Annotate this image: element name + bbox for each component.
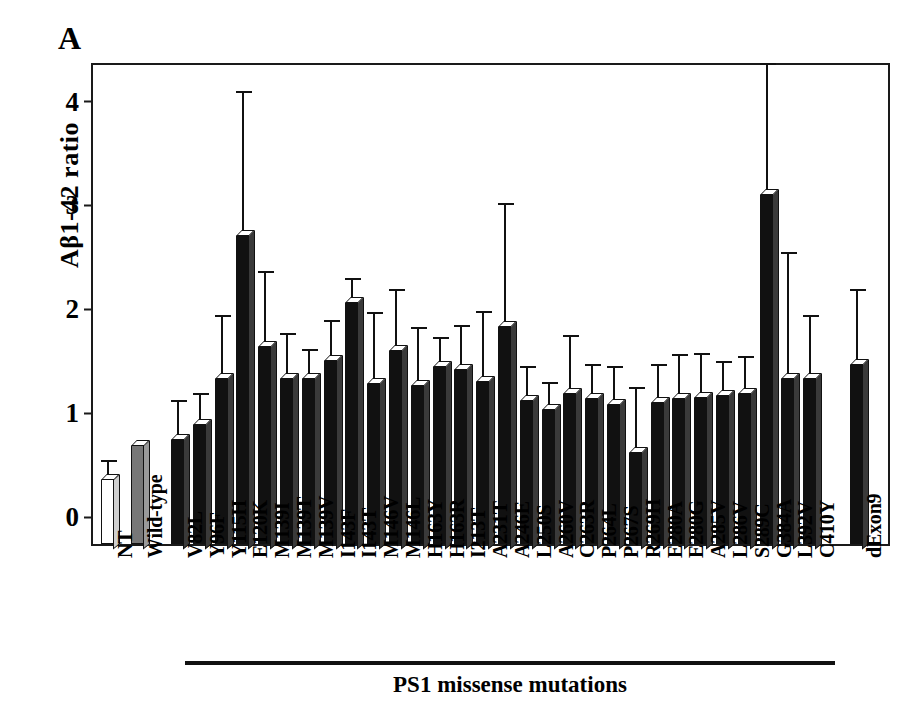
x-label-wild-type: Wild-type	[145, 475, 165, 558]
error-bar-cap	[345, 278, 361, 280]
error-bar-cap	[716, 361, 732, 363]
error-bar-cap	[542, 382, 558, 384]
x-axis-labels: NTWild-typeV82LY96FY115HE120KM139IM139TM…	[0, 552, 924, 672]
error-bar-cap	[694, 353, 710, 355]
y-tick-label: 0	[66, 504, 85, 531]
error-bar-cap	[850, 289, 866, 291]
error-bar-cap	[738, 356, 754, 358]
error-bar-cap	[302, 349, 318, 351]
error-bar-a231t	[482, 312, 484, 375]
error-bar-e120k	[242, 92, 244, 230]
error-bar-cap	[215, 315, 231, 317]
error-bar-m146l	[395, 290, 397, 345]
x-label-l286v: L286V	[730, 501, 750, 558]
x-label-h163r: H163R	[447, 499, 467, 558]
y-tick-label: 1	[66, 400, 85, 427]
bar-g384a[interactable]	[760, 189, 779, 544]
y-tick-3: 3	[66, 192, 94, 219]
x-label-a231t: A231T	[490, 501, 510, 558]
error-bar-p264l	[591, 365, 593, 393]
x-label-a285v: A285V	[708, 500, 728, 558]
bar-face	[131, 445, 144, 544]
x-label-m139t: M139T	[294, 497, 314, 558]
y-tick-mark	[84, 516, 93, 518]
x-label-m139v: M139V	[316, 496, 336, 558]
x-label-y96f: Y96F	[207, 512, 227, 558]
error-bar-s289c	[744, 357, 746, 388]
plot-area: 01234	[91, 63, 890, 546]
y-tick-mark	[84, 101, 93, 103]
error-bar-cap	[236, 91, 252, 93]
bar-face	[236, 235, 249, 544]
error-bar-cap	[433, 337, 449, 339]
error-bar-m139v	[308, 350, 310, 373]
error-bar-cap	[367, 312, 383, 314]
x-label-m146v: M146V	[381, 496, 401, 558]
y-tick-mark	[84, 204, 93, 206]
y-tick-mark	[84, 308, 93, 310]
error-bar-e280a	[657, 365, 659, 396]
y-tick-label: 2	[66, 296, 85, 323]
x-label-g384a: G384A	[774, 499, 794, 558]
error-bar-m146v	[373, 313, 375, 377]
error-bar-cap	[280, 333, 296, 335]
error-bar-cap	[760, 63, 776, 65]
error-bar-h163y	[417, 328, 419, 380]
x-axis-title: PS1 missense mutations	[185, 672, 835, 698]
error-bar-l250s	[526, 367, 528, 395]
error-bar-cap	[476, 311, 492, 313]
error-bar-a260v	[548, 383, 550, 404]
bar-face	[101, 479, 114, 544]
error-bar-cap	[324, 320, 340, 322]
x-label-p264l: P264L	[599, 503, 619, 558]
error-bar-cap	[563, 335, 579, 337]
bar-series	[93, 65, 888, 544]
error-bar-i143f	[330, 321, 332, 355]
bar-face	[760, 194, 773, 544]
error-bar-r269h	[635, 388, 637, 447]
x-label-a260v: A260V	[556, 500, 576, 558]
x-label-m146l: M146L	[403, 497, 423, 558]
error-bar-nt	[107, 461, 109, 475]
error-bar-a285v	[700, 354, 702, 392]
error-bar-cap	[585, 364, 601, 366]
x-label-l392v: L392V	[795, 501, 815, 558]
error-bar-dexon9	[856, 290, 858, 360]
error-bar-cap	[672, 354, 688, 356]
x-label-y115h: Y115H	[229, 500, 249, 558]
x-label-c263r: C263R	[577, 500, 597, 558]
y-tick-label: 4	[66, 88, 85, 115]
error-bar-p267s	[613, 367, 615, 398]
error-bar-m139t	[286, 334, 288, 372]
x-label-e280g: E280G	[686, 500, 706, 558]
bar-body	[236, 230, 255, 544]
error-bar-i143t	[351, 279, 353, 297]
error-bar-h163r	[439, 338, 441, 361]
y-tick-0: 0	[66, 504, 94, 531]
error-bar-cap	[520, 366, 536, 368]
group-bracket	[185, 661, 835, 665]
y-tick-1: 1	[66, 400, 94, 427]
x-label-i143t: I143T	[359, 508, 379, 558]
error-bar-cap	[171, 400, 187, 402]
x-label-c410y: C410Y	[817, 500, 837, 558]
x-label-s289c: S289C	[752, 503, 772, 558]
x-label-l250s: L250S	[534, 505, 554, 558]
y-tick-2: 2	[66, 296, 94, 323]
error-bar-cap	[629, 387, 645, 389]
error-bar-a246e	[504, 204, 506, 320]
bar-e120k[interactable]	[236, 230, 255, 544]
bar-face	[345, 302, 358, 544]
x-label-h163y: H163Y	[425, 499, 445, 558]
bar-side	[772, 189, 779, 550]
bar-face	[850, 364, 863, 544]
x-label-nt: NT	[115, 531, 135, 558]
x-label-m139i: M139I	[272, 502, 292, 558]
error-bar-y96f	[199, 394, 201, 419]
error-bar-e280g	[678, 355, 680, 393]
error-bar-cap	[389, 289, 405, 291]
error-bar-cap	[411, 327, 427, 329]
error-bar-cap	[607, 366, 623, 368]
x-label-e120k: E120K	[250, 500, 270, 558]
y-tick-label: 3	[66, 192, 85, 219]
